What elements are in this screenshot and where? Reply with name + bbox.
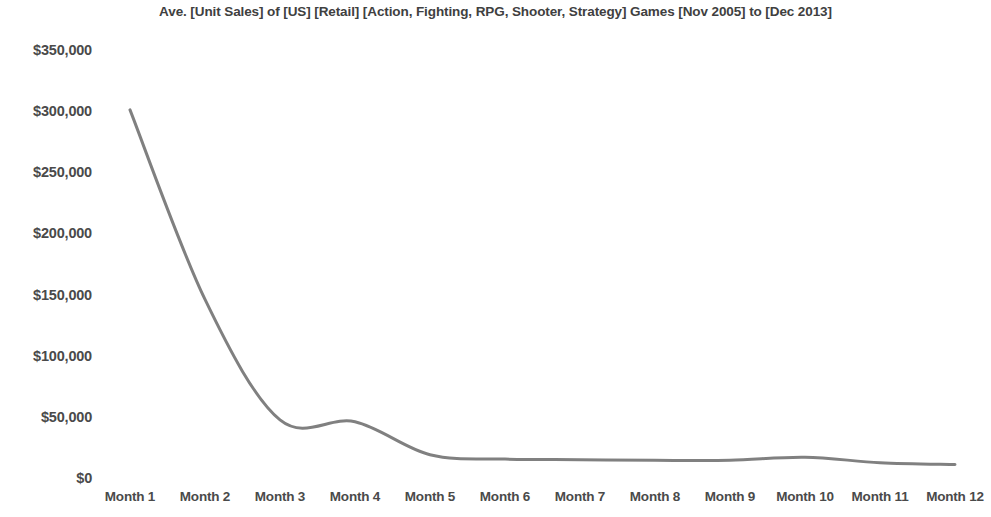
y-tick-label: $200,000	[0, 225, 92, 241]
chart-title: Ave. [Unit Sales] of [US] [Retail] [Acti…	[0, 4, 991, 19]
x-tick-label: Month 12	[926, 489, 984, 504]
x-tick-label: Month 10	[776, 489, 834, 504]
y-tick-label: $350,000	[0, 42, 92, 58]
x-tick-label: Month 11	[852, 489, 909, 504]
x-tick-label: Month 5	[405, 489, 455, 504]
y-tick-label: $300,000	[0, 103, 92, 119]
x-tick-label: Month 7	[555, 489, 605, 504]
x-tick-label: Month 2	[180, 489, 230, 504]
y-axis: $0$50,000$100,000$150,000$200,000$250,00…	[0, 0, 92, 517]
plot-area	[95, 38, 985, 490]
x-tick-label: Month 6	[480, 489, 530, 504]
line-series-path	[130, 110, 955, 465]
x-tick-label: Month 9	[705, 489, 755, 504]
line-series-svg	[95, 38, 985, 490]
x-tick-label: Month 8	[630, 489, 680, 504]
chart-container: Ave. [Unit Sales] of [US] [Retail] [Acti…	[0, 0, 991, 517]
x-tick-label: Month 4	[330, 489, 380, 504]
y-tick-label: $0	[0, 470, 92, 486]
y-tick-label: $50,000	[0, 409, 92, 425]
x-tick-label: Month 3	[255, 489, 305, 504]
y-tick-label: $250,000	[0, 164, 92, 180]
x-tick-label: Month 1	[105, 489, 155, 504]
x-axis: Month 1Month 2Month 3Month 4Month 5Month…	[0, 489, 991, 517]
y-tick-label: $100,000	[0, 348, 92, 364]
y-tick-label: $150,000	[0, 287, 92, 303]
